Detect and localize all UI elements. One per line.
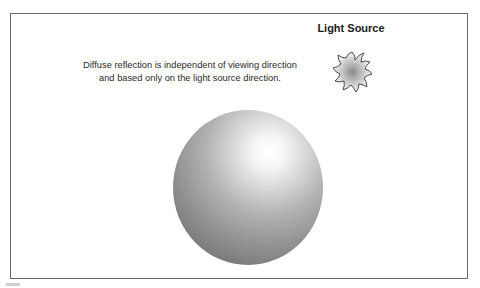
caption-line-2: and based only on the light source direc… — [70, 72, 310, 85]
light-source-label: Light Source — [316, 22, 386, 34]
caption-line-1: Diffuse reflection is independent of vie… — [70, 59, 310, 72]
corner-mark — [6, 283, 20, 286]
shaded-sphere — [173, 110, 323, 265]
sun-icon — [330, 48, 374, 94]
caption: Diffuse reflection is independent of vie… — [70, 59, 310, 85]
